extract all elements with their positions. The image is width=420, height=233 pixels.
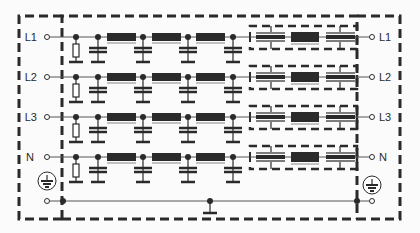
- junction-dot: [60, 198, 66, 204]
- pe-right-terminal: [370, 199, 375, 204]
- feedthrough-conductor: [256, 75, 285, 79]
- bleeder-resistor-icon: [73, 164, 79, 177]
- inductor-icon: [196, 73, 225, 81]
- feedthrough-conductor: [256, 155, 285, 159]
- feedthrough-conductor: [326, 115, 355, 119]
- inductor-icon: [107, 33, 136, 41]
- inductor-icon: [291, 152, 319, 162]
- pe-left-terminal: [45, 199, 50, 204]
- right-terminal-label-l1: L1: [379, 32, 391, 43]
- inductor-icon: [152, 153, 181, 161]
- left-terminal-label-l2: L2: [17, 72, 37, 83]
- feedthrough-conductor: [326, 75, 355, 79]
- right-terminal-label-l2: L2: [379, 72, 391, 83]
- feedthrough-conductor: [326, 155, 355, 159]
- inductor-icon: [107, 113, 136, 121]
- bleeder-resistor-icon: [73, 44, 79, 57]
- left-terminal-circle: [45, 155, 50, 160]
- left-terminal-label-l1: L1: [17, 32, 37, 43]
- left-terminal-circle: [45, 35, 50, 40]
- right-terminal-circle: [370, 75, 375, 80]
- inductor-icon: [107, 153, 136, 161]
- right-terminal-label-l3: L3: [379, 112, 391, 123]
- right-terminal-circle: [370, 155, 375, 160]
- left-terminal-circle: [45, 115, 50, 120]
- feedthrough-conductor: [256, 35, 285, 39]
- right-terminal-circle: [370, 35, 375, 40]
- filter-schematic: [0, 0, 420, 233]
- bleeder-resistor-icon: [73, 84, 79, 97]
- bleeder-resistor-icon: [73, 124, 79, 137]
- inductor-icon: [291, 112, 319, 122]
- inductor-icon: [107, 73, 136, 81]
- inductor-icon: [196, 113, 225, 121]
- circuit-diagram: L1 L2 L3 N L1 L2 L3 N: [0, 0, 420, 233]
- inductor-icon: [291, 32, 319, 42]
- inductor-icon: [196, 153, 225, 161]
- junction-dot: [354, 198, 360, 204]
- inductor-icon: [152, 113, 181, 121]
- inductor-icon: [291, 72, 319, 82]
- feedthrough-conductor: [256, 115, 285, 119]
- feedthrough-conductor: [326, 35, 355, 39]
- inductor-icon: [152, 73, 181, 81]
- left-terminal-circle: [45, 75, 50, 80]
- inductor-icon: [152, 33, 181, 41]
- right-terminal-label-n: N: [379, 152, 387, 163]
- left-terminal-label-l3: L3: [17, 112, 37, 123]
- inductor-icon: [196, 33, 225, 41]
- left-terminal-label-n: N: [14, 152, 34, 163]
- right-terminal-circle: [370, 115, 375, 120]
